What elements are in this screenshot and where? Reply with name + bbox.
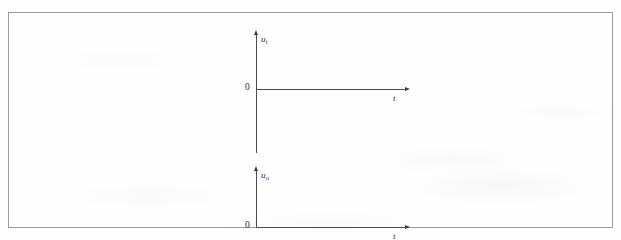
input-y-axis-label-subscript: i xyxy=(266,38,268,45)
figure-frame: ui t 0 uo t 0 xyxy=(8,12,613,228)
output-x-axis-line xyxy=(256,227,406,228)
output-x-axis-arrow-icon xyxy=(405,225,410,229)
output-y-axis-line xyxy=(256,171,257,228)
output-x-axis-label: t xyxy=(393,231,396,240)
input-x-axis-arrow-icon xyxy=(405,87,410,91)
output-y-axis-label-text: u xyxy=(261,170,266,180)
input-x-axis-label: t xyxy=(393,93,396,103)
input-y-axis-line xyxy=(256,35,257,153)
output-y-axis-arrow-icon xyxy=(254,166,258,171)
output-y-axis-label: uo xyxy=(261,170,269,180)
output-origin-label: 0 xyxy=(245,220,250,230)
input-y-axis-label-text: u xyxy=(261,34,266,44)
input-y-axis-label: ui xyxy=(261,34,267,44)
input-x-axis-line xyxy=(256,89,406,90)
input-y-axis-arrow-icon xyxy=(254,30,258,35)
input-origin-label: 0 xyxy=(245,82,250,92)
output-y-axis-label-subscript: o xyxy=(266,174,269,181)
